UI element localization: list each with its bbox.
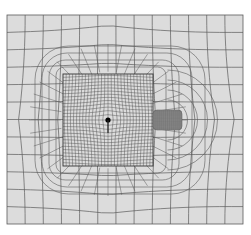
mesh-svg — [0, 0, 251, 235]
refined-block-mesh — [153, 110, 182, 130]
mesh-diagram — [0, 0, 251, 235]
